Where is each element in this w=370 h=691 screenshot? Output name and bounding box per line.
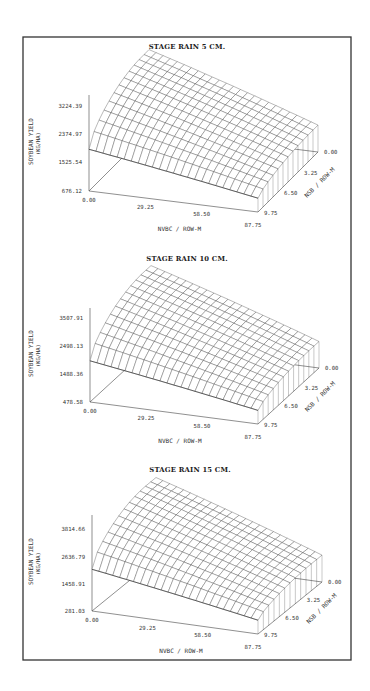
y-tick: 0.00: [324, 149, 337, 155]
x-axis-line: [92, 611, 258, 634]
x-tick: 0.00: [83, 408, 96, 414]
z-tick: 1525.54: [58, 159, 82, 165]
z-tick: 281.03: [65, 608, 85, 614]
x-tick: 87.75: [245, 644, 262, 650]
z-tick: 676.12: [62, 188, 82, 194]
z-axis-label: SOYBEAN YIELD: [27, 538, 34, 585]
z-tick: 3224.39: [58, 103, 82, 109]
y-tick: 6.50: [285, 615, 298, 621]
z-axis-unit: (KG/HA): [35, 132, 41, 155]
z-axis-unit: (KG/HA): [35, 552, 41, 575]
x-axis-line: [90, 402, 258, 424]
x-tick: 29.25: [137, 204, 154, 210]
x-tick: 0.00: [82, 197, 95, 203]
z-axis-label: SOYBEAN YIELD: [27, 330, 34, 377]
y-tick: 3.25: [304, 170, 317, 176]
y-tick: 6.50: [284, 403, 297, 409]
z-axis-unit: (KG/HA): [35, 344, 41, 367]
x-tick: 29.25: [138, 415, 155, 421]
z-tick: 1488.36: [59, 371, 83, 377]
z-axis-label: SOYBEAN YIELD: [27, 118, 34, 165]
z-tick: 3814.66: [61, 526, 85, 532]
chart-title: STAGE RAIN 10 CM.: [146, 255, 227, 263]
x-tick: 29.25: [139, 625, 156, 631]
figure: STAGE RAIN 5 CM. SOYBEAN YIELD (KG/HA) N…: [0, 0, 370, 691]
x-tick: 0.00: [85, 617, 98, 623]
x-axis-line: [89, 191, 258, 212]
z-tick-labels: 478.58 1488.36 2498.13 3507.91: [59, 315, 83, 405]
chart-title: STAGE RAIN 15 CM.: [149, 466, 230, 474]
x-axis-label: NVBC / ROW-M: [158, 437, 202, 444]
surface-mesh: [92, 478, 322, 635]
z-tick: 2636.79: [61, 554, 85, 560]
y-tick: 9.75: [264, 422, 277, 428]
y-tick: 6.50: [284, 190, 297, 196]
chart-panel-rain-15cm: STAGE RAIN 15 CM. SOYBEAN YIELD (KG/HA) …: [27, 466, 341, 654]
z-tick-labels: 676.12 1525.54 2374.97 3224.39: [58, 103, 82, 194]
x-tick: 58.50: [193, 211, 210, 217]
y-tick: 3.25: [307, 597, 320, 603]
z-tick: 3507.91: [59, 315, 83, 321]
x-tick: 87.75: [245, 222, 262, 228]
z-tick: 2374.97: [58, 131, 82, 137]
x-tick: 87.75: [245, 434, 262, 440]
y-tick: 3.25: [305, 385, 318, 391]
y-tick: 0.00: [325, 365, 338, 371]
x-tick-labels: 0.00 29.25 58.50 87.75: [82, 197, 261, 228]
z-tick-labels: 281.03 1458.91 2636.79 3814.66: [61, 526, 85, 614]
z-tick: 2498.13: [59, 343, 83, 349]
surface-mesh: [89, 50, 318, 212]
chart-title: STAGE RAIN 5 CM.: [149, 43, 226, 51]
y-tick: 0.00: [328, 579, 341, 585]
x-tick-labels: 0.00 29.25 58.50 87.75: [85, 617, 261, 650]
chart-panel-rain-5cm: STAGE RAIN 5 CM. SOYBEAN YIELD (KG/HA) N…: [27, 43, 337, 232]
x-axis-label: NVBC / ROW-M: [159, 647, 203, 654]
surface-mesh: [90, 266, 319, 424]
x-tick: 58.50: [194, 632, 211, 638]
y-tick: 9.75: [264, 632, 277, 638]
y-tick: 9.75: [264, 210, 277, 216]
chart-panel-rain-10cm: STAGE RAIN 10 CM. SOYBEAN YIELD (KG/HA) …: [27, 255, 338, 444]
x-axis-label: NVBC / ROW-M: [158, 225, 202, 232]
z-tick: 478.58: [63, 399, 84, 405]
z-tick: 1458.91: [61, 581, 85, 587]
x-tick: 58.50: [194, 423, 211, 429]
